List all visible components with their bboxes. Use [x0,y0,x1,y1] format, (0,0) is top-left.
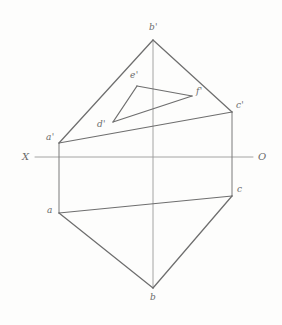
canvas-background [0,0,282,325]
projection-drawing-canvas [0,0,282,325]
